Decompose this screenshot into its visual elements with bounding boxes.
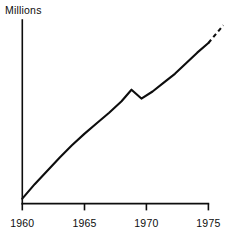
x-axis-ticks (22, 204, 208, 211)
chart-canvas: 1960 1965 1970 1975 (0, 0, 231, 240)
data-line-millions (22, 43, 208, 199)
x-axis-tick-labels: 1960 1965 1970 1975 (10, 217, 220, 229)
x-tick-label-1970: 1970 (134, 217, 158, 229)
data-series-group (22, 25, 223, 198)
x-tick-label-1975: 1975 (196, 217, 220, 229)
axes-group (22, 20, 208, 204)
data-line-millions-projection (208, 25, 223, 43)
x-tick-label-1960: 1960 (10, 217, 34, 229)
x-tick-label-1965: 1965 (72, 217, 96, 229)
line-chart-figure: Millions 1960 1965 1970 1975 (0, 0, 231, 240)
